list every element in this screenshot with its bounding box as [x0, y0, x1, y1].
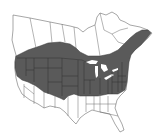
north-america-map [0, 0, 166, 137]
range-map [0, 0, 166, 137]
